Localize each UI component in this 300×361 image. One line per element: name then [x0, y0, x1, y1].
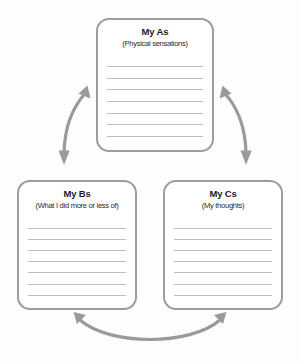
box-my-as-subtitle: (Physical sensations) — [107, 39, 203, 48]
write-line[interactable] — [28, 229, 126, 240]
box-my-bs[interactable]: My Bs (What I did more or less of) — [17, 180, 137, 310]
write-line[interactable] — [174, 273, 272, 284]
box-my-as[interactable]: My As (Physical sensations) — [96, 18, 214, 152]
arrow-a-c — [220, 86, 252, 166]
box-my-cs-write-lines[interactable] — [174, 218, 272, 302]
write-line[interactable] — [107, 67, 203, 79]
write-line[interactable] — [174, 251, 272, 262]
box-my-cs[interactable]: My Cs (My thoughts) — [163, 180, 283, 310]
write-line[interactable] — [28, 262, 126, 273]
box-my-cs-subtitle: (My thoughts) — [174, 201, 272, 210]
write-line[interactable] — [28, 218, 126, 229]
write-line[interactable] — [174, 229, 272, 240]
box-my-bs-subtitle: (What I did more or less of) — [28, 201, 126, 210]
box-my-bs-write-lines[interactable] — [28, 218, 126, 302]
write-line[interactable] — [174, 218, 272, 229]
box-my-as-title: My As — [107, 27, 203, 38]
box-my-cs-title: My Cs — [174, 189, 272, 200]
write-line[interactable] — [28, 240, 126, 251]
box-my-bs-title: My Bs — [28, 189, 126, 200]
write-line[interactable] — [174, 262, 272, 273]
arrowhead-down-right — [241, 151, 252, 166]
box-my-as-write-lines[interactable] — [107, 56, 203, 144]
arrow-b-c — [74, 312, 227, 340]
write-line[interactable] — [107, 114, 203, 126]
write-line[interactable] — [107, 102, 203, 114]
write-line[interactable] — [174, 240, 272, 251]
write-line[interactable] — [107, 125, 203, 137]
write-line[interactable] — [28, 273, 126, 284]
write-line[interactable] — [28, 285, 126, 296]
arrow-a-b — [59, 86, 91, 166]
write-line[interactable] — [28, 251, 126, 262]
arrowhead-down-left — [59, 151, 70, 166]
write-line[interactable] — [107, 79, 203, 91]
write-line[interactable] — [107, 90, 203, 102]
write-line[interactable] — [174, 285, 272, 296]
abc-cycle-diagram: My As (Physical sensations) My Bs (What … — [0, 0, 300, 361]
write-line[interactable] — [107, 56, 203, 68]
